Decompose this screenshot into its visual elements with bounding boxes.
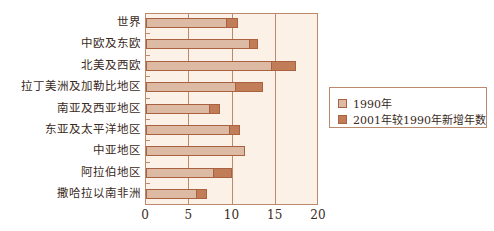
category-label: 中亚地区 [93,144,141,156]
category-label: 阿拉伯地区 [81,166,141,178]
category-label: 世界 [117,16,141,28]
bar-1990 [146,18,227,28]
legend-label: 1990年 [353,95,392,111]
bar-increase [209,104,220,114]
legend: 1990年 2001年较1990年新增年数 [329,87,487,128]
category-label: 撒哈拉以南非洲 [57,187,141,199]
category-label: 南亚及西亚地区 [57,102,141,114]
category-label: 东亚及太平洋地区 [45,123,141,135]
x-tick-label: 20 [310,208,325,222]
gridline [275,14,276,204]
y-tick [146,119,150,120]
bar-1990 [146,82,236,92]
legend-item-increase: 2001年较1990年新增年数 [338,111,486,127]
bar-increase [229,125,240,135]
category-label: 拉丁美洲及加勒比地区 [21,80,141,92]
x-tick-label: 5 [184,208,192,222]
bar-increase [271,61,295,71]
bar-1990 [146,146,245,156]
bar-increase [213,168,232,178]
y-tick [146,140,150,141]
x-tick-label: 10 [224,208,239,222]
bar-increase [196,189,207,199]
legend-item-1990: 1990年 [338,95,392,111]
legend-swatch-icon [338,99,347,108]
y-tick [146,33,150,34]
bar-1990 [146,125,230,135]
category-label: 中欧及东欧 [81,37,141,49]
bar-1990 [146,168,214,178]
bar-1990 [146,189,197,199]
x-tick-label: 0 [141,208,149,222]
bar-1990 [146,61,272,71]
y-tick [146,55,150,56]
bar-increase [235,82,263,92]
legend-label: 2001年较1990年新增年数 [353,111,486,127]
plot-area [145,13,318,205]
y-tick [146,98,150,99]
x-tick-label: 15 [267,208,282,222]
legend-swatch-icon [338,115,347,124]
y-tick [146,162,150,163]
bar-increase [249,39,258,49]
y-tick [146,76,150,77]
bar-increase [226,18,237,28]
bar-1990 [146,104,210,114]
y-tick [146,183,150,184]
bar-1990 [146,39,250,49]
category-label: 北美及西欧 [81,59,141,71]
